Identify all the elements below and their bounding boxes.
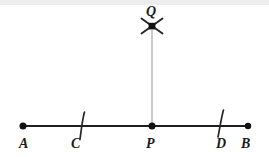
point-label-p: P bbox=[146, 136, 155, 151]
point-marker-b bbox=[245, 123, 251, 129]
point-marker-a bbox=[20, 123, 27, 130]
point-label-q: Q bbox=[146, 4, 156, 19]
point-marker-p bbox=[149, 123, 156, 130]
point-label-d: D bbox=[215, 136, 226, 151]
point-label-a: A bbox=[18, 136, 28, 151]
geometry-figure: A C P D B Q bbox=[0, 0, 269, 157]
point-label-b: B bbox=[240, 136, 250, 151]
figure-canvas: A C P D B Q bbox=[0, 0, 269, 157]
point-label-c: C bbox=[71, 136, 81, 151]
top-edge-band bbox=[0, 0, 269, 5]
construction-arc-tick-d bbox=[218, 110, 224, 137]
cross-intersection-hub bbox=[149, 23, 156, 30]
